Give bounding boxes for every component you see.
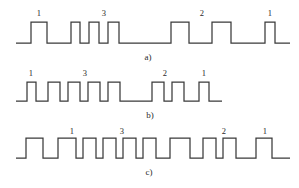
pulse-count-label: 1 bbox=[37, 9, 41, 18]
pulse-train-figure: 1321a)1321b)1321c) bbox=[0, 0, 299, 188]
pulse-count-label: 1 bbox=[202, 69, 206, 78]
pulse-count-label: 2 bbox=[222, 127, 226, 136]
waveform-row-c bbox=[0, 118, 299, 188]
pulse-count-label: 2 bbox=[200, 9, 204, 18]
pulse-count-label: 1 bbox=[29, 69, 33, 78]
pulse-count-label: 3 bbox=[102, 9, 106, 18]
pulse-count-label: 3 bbox=[83, 69, 87, 78]
pulse-count-label: 2 bbox=[163, 69, 167, 78]
waveform-trace-c bbox=[0, 118, 299, 188]
pulse-count-label: 1 bbox=[70, 127, 74, 136]
row-caption-c: c) bbox=[146, 167, 153, 177]
row-caption-a: a) bbox=[145, 52, 152, 62]
pulse-count-label: 1 bbox=[263, 127, 267, 136]
row-caption-b: b) bbox=[146, 110, 154, 120]
pulse-count-label: 3 bbox=[120, 127, 124, 136]
pulse-count-label: 1 bbox=[268, 9, 272, 18]
